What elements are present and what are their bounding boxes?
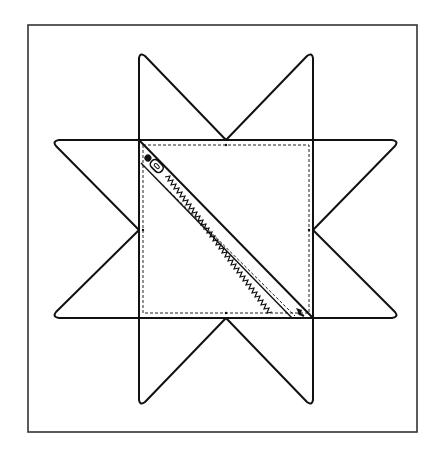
star-point-bottom-right: [226, 318, 313, 404]
outer-frame: [28, 25, 417, 432]
star-point-top-right: [226, 54, 313, 140]
zipper-stitching: [145, 167, 295, 316]
zipper-teeth: [165, 176, 272, 313]
star-point-left-bottom: [55, 230, 139, 318]
star-point-left-top: [55, 140, 139, 230]
diagonal-seam: [139, 140, 313, 318]
star-quilt-diagram: [0, 0, 440, 455]
star-point-bottom-left: [139, 318, 226, 404]
star-point-right-top: [313, 140, 396, 230]
star-point-right-bottom: [313, 230, 396, 318]
star-point-top-left: [139, 54, 226, 140]
zipper: [141, 152, 304, 318]
zipper-end: [298, 313, 304, 316]
